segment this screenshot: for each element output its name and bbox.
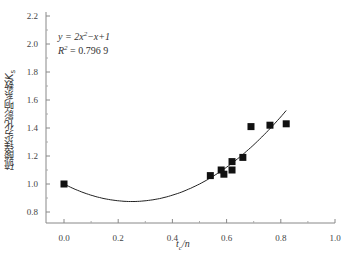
data-point-marker — [220, 171, 227, 178]
y-axis-label: 硫酸镁劣化影响系数Ks — [2, 60, 22, 180]
data-point-marker — [283, 120, 290, 127]
chart-canvas: 0.81.01.21.41.61.82.02.20.00.20.40.60.81… — [0, 0, 353, 264]
data-point-marker — [266, 122, 273, 129]
y-tick-label: 0.8 — [27, 207, 39, 217]
data-point-marker — [61, 181, 68, 188]
y-tick-label: 1.8 — [27, 67, 39, 77]
fit-equation: y = 2x2−x+1 — [57, 30, 110, 42]
data-point-marker — [229, 158, 236, 165]
x-tick-label: 0.2 — [113, 233, 124, 243]
x-tick-label: 0.0 — [58, 233, 70, 243]
r-squared-value: R2 = 0.796 9 — [57, 44, 108, 56]
y-tick-label: 2.2 — [27, 11, 38, 21]
y-tick-label: 2.0 — [27, 39, 39, 49]
data-point-marker — [247, 123, 254, 130]
y-tick-label: 1.6 — [27, 95, 39, 105]
y-tick-label: 1.4 — [27, 123, 39, 133]
x-tick-label: 0.6 — [221, 233, 233, 243]
data-point-marker — [229, 167, 236, 174]
x-axis-label: tc/n — [176, 238, 190, 252]
x-tick-label: 1.0 — [329, 233, 341, 243]
y-tick-label: 1.2 — [27, 151, 38, 161]
y-tick-label: 1.0 — [27, 179, 39, 189]
x-tick-label: 0.8 — [275, 233, 287, 243]
data-point-marker — [239, 154, 246, 161]
data-point-marker — [207, 172, 214, 179]
